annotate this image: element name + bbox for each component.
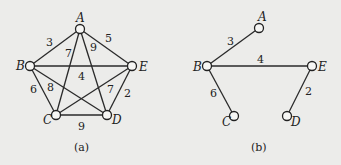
weight-a-e: 5 [105, 32, 112, 45]
weight-a-c: 7 [65, 47, 72, 60]
weight-b-e: 4 [257, 53, 264, 66]
weight-b-d: 8 [47, 81, 54, 94]
node-label-e: E [138, 60, 148, 74]
weight-e-d: 2 [124, 87, 131, 100]
weight-b-e: 4 [78, 70, 85, 83]
node-label-c: C [43, 113, 52, 127]
weight-a-b: 3 [46, 36, 53, 49]
edge-a-b [30, 29, 80, 66]
caption-b: (b) [251, 141, 267, 154]
weight-c-e: 7 [107, 83, 114, 96]
node-label-a: A [75, 11, 85, 25]
node-a [76, 25, 85, 34]
node-a [255, 24, 264, 33]
node-b [203, 62, 212, 71]
figure-a: 3 5 7 9 4 6 8 7 2 9 A B C D E (a) [15, 11, 148, 154]
weight-c-d: 9 [78, 120, 85, 133]
weight-b-c: 6 [210, 87, 217, 100]
node-label-a: A [257, 10, 267, 24]
node-label-d: D [290, 115, 301, 129]
weight-a-b: 3 [227, 35, 234, 48]
node-label-b: B [192, 60, 202, 74]
node-c [52, 111, 61, 120]
node-b [26, 62, 35, 71]
node-label-e: E [317, 60, 327, 74]
node-d [103, 111, 112, 120]
caption-a: (a) [74, 141, 89, 154]
weight-e-d: 2 [305, 85, 312, 98]
weight-a-d: 9 [90, 41, 97, 54]
node-e [128, 62, 137, 71]
node-label-c: C [222, 115, 231, 129]
weight-b-c: 6 [30, 83, 37, 96]
node-label-b: B [15, 59, 25, 73]
node-label-d: D [111, 113, 122, 127]
diagram-canvas: 3 5 7 9 4 6 8 7 2 9 A B C D E (a) 3 4 6 … [0, 0, 341, 165]
node-e [308, 62, 317, 71]
figure-b: 3 4 6 2 A B C D E (b) [192, 10, 327, 154]
